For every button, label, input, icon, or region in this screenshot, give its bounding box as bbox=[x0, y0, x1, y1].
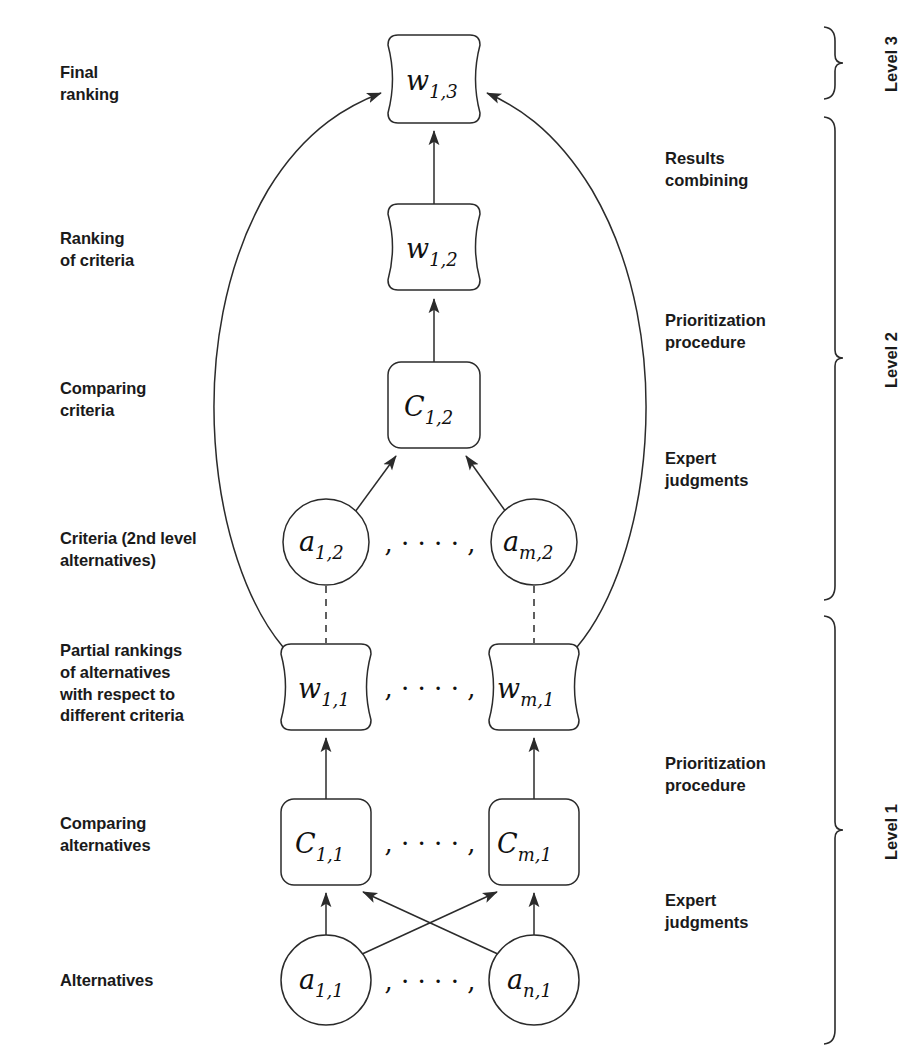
label-expert-judgments-2-line2: judgments bbox=[665, 470, 748, 492]
label-results-combining-line2: combining bbox=[665, 170, 748, 192]
level-braces-layer bbox=[824, 27, 843, 1044]
label-comparing-alternatives: Comparing alternatives bbox=[60, 813, 151, 857]
label-expert-judgments-1-line1: Expert bbox=[665, 890, 748, 912]
diagram-canvas: w1,3 w1,2 C1,2 a1,2 bbox=[0, 0, 920, 1059]
label-ranking-of-criteria-line2: of criteria bbox=[60, 250, 134, 272]
node-a11[interactable]: a1,1 bbox=[281, 935, 371, 1025]
label-results-combining-line1: Results bbox=[665, 148, 748, 170]
edge-a11-to-cm1 bbox=[360, 892, 497, 955]
node-w13[interactable]: w1,3 bbox=[388, 35, 480, 123]
node-w13-shape bbox=[388, 35, 480, 123]
node-am2[interactable]: am,2 bbox=[491, 499, 577, 585]
brace-level-3 bbox=[824, 27, 843, 99]
label-prioritization-procedure-2: Prioritization procedure bbox=[665, 310, 766, 354]
node-a12[interactable]: a1,2 bbox=[283, 499, 369, 585]
label-comparing-criteria: Comparing criteria bbox=[60, 378, 146, 422]
label-comparing-alternatives-line2: alternatives bbox=[60, 835, 151, 857]
label-alternatives: Alternatives bbox=[60, 970, 153, 992]
node-w11-shape bbox=[281, 644, 371, 730]
label-partial-rankings-line3: with respect to bbox=[60, 684, 184, 706]
edge-am2-to-c12 bbox=[466, 456, 506, 512]
node-w12[interactable]: w1,2 bbox=[388, 204, 480, 290]
dots-a2: , · · · · , bbox=[385, 528, 476, 558]
label-results-combining: Results combining bbox=[665, 148, 748, 192]
label-final-ranking: Final ranking bbox=[60, 62, 119, 106]
label-alternatives-line1: Alternatives bbox=[60, 970, 153, 992]
label-expert-judgments-2-line1: Expert bbox=[665, 448, 748, 470]
label-ranking-of-criteria-line1: Ranking bbox=[60, 228, 134, 250]
edge-an1-to-c11 bbox=[363, 892, 500, 955]
label-prioritization-procedure-1: Prioritization procedure bbox=[665, 753, 766, 797]
edge-a12-to-c12 bbox=[355, 456, 396, 512]
label-partial-rankings-line4: different criteria bbox=[60, 705, 184, 727]
label-final-ranking-line2: ranking bbox=[60, 84, 119, 106]
ellipsis-layer: , · · · · , , · · · · , , · · · · , , · … bbox=[385, 528, 476, 996]
node-w11[interactable]: w1,1 bbox=[281, 644, 371, 730]
node-c12[interactable]: C1,2 bbox=[388, 362, 480, 448]
node-wm1[interactable]: wm,1 bbox=[489, 644, 579, 730]
label-comparing-criteria-line2: criteria bbox=[60, 400, 146, 422]
label-level-3: Level 3 bbox=[882, 36, 901, 92]
label-expert-judgments-1: Expert judgments bbox=[665, 890, 748, 934]
label-partial-rankings: Partial rankings of alternatives with re… bbox=[60, 640, 184, 727]
dots-a1: , · · · · , bbox=[385, 966, 476, 996]
label-criteria-2nd-level-line1: Criteria (2nd level bbox=[60, 528, 197, 550]
label-comparing-alternatives-line1: Comparing bbox=[60, 813, 151, 835]
label-criteria-2nd-level: Criteria (2nd level alternatives) bbox=[60, 528, 197, 572]
label-level-2: Level 2 bbox=[882, 332, 901, 388]
node-w12-shape bbox=[388, 204, 480, 290]
label-expert-judgments-2: Expert judgments bbox=[665, 448, 748, 492]
label-ranking-of-criteria: Ranking of criteria bbox=[60, 228, 134, 272]
dots-w1: , · · · · , bbox=[385, 673, 476, 703]
brace-level-1 bbox=[824, 616, 843, 1044]
node-an1[interactable]: an,1 bbox=[489, 935, 579, 1025]
label-comparing-criteria-line1: Comparing bbox=[60, 378, 146, 400]
brace-level-2 bbox=[824, 117, 843, 600]
label-expert-judgments-1-line2: judgments bbox=[665, 912, 748, 934]
node-cm1[interactable]: Cm,1 bbox=[489, 799, 579, 885]
node-c12-shape bbox=[388, 362, 480, 448]
label-final-ranking-line1: Final bbox=[60, 62, 119, 84]
label-prioritization-procedure-2-line2: procedure bbox=[665, 332, 766, 354]
label-prioritization-procedure-2-line1: Prioritization bbox=[665, 310, 766, 332]
label-prioritization-procedure-1-line1: Prioritization bbox=[665, 753, 766, 775]
label-prioritization-procedure-1-line2: procedure bbox=[665, 775, 766, 797]
node-c11[interactable]: C1,1 bbox=[281, 799, 371, 885]
label-level-1: Level 1 bbox=[882, 804, 901, 860]
dots-c1: , · · · · , bbox=[385, 828, 476, 858]
label-partial-rankings-line1: Partial rankings bbox=[60, 640, 184, 662]
label-partial-rankings-line2: of alternatives bbox=[60, 662, 184, 684]
label-criteria-2nd-level-line2: alternatives) bbox=[60, 550, 197, 572]
